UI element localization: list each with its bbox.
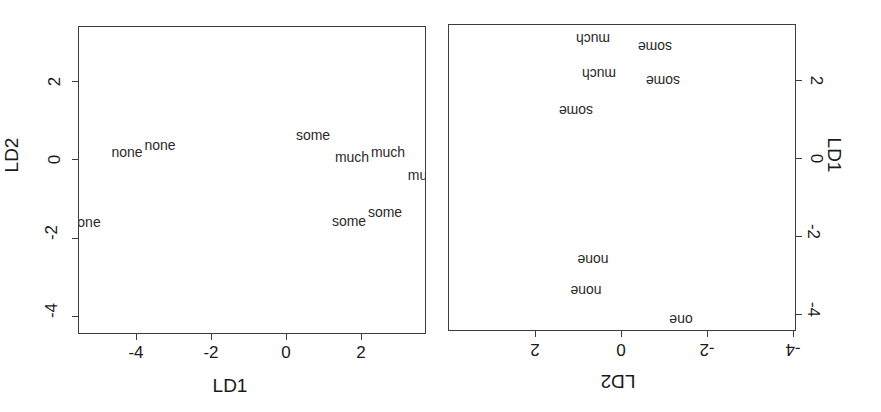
lda-scatter-figure: none none one some much much muc some so…	[0, 0, 881, 412]
x-axis-title: LD1	[213, 376, 248, 395]
x-tick	[286, 334, 287, 340]
y-tick-label: 2	[808, 76, 825, 85]
y-tick	[796, 314, 802, 315]
data-label: muc	[602, 24, 628, 27]
right-plot-frame: none none one some much much muc some so…	[448, 24, 796, 331]
x-tick	[211, 334, 212, 340]
left-plot-panel: none none one some much much muc some so…	[0, 0, 441, 412]
x-tick	[793, 331, 794, 337]
y-tick-label: 0	[46, 155, 63, 164]
data-label: some	[646, 74, 680, 88]
data-label: none	[570, 284, 601, 298]
y-tick	[72, 316, 78, 317]
x-tick-label: -2	[203, 344, 218, 361]
y-tick-label: 2	[46, 77, 63, 86]
data-label: one	[78, 215, 101, 229]
y-tick	[796, 80, 802, 81]
y-tick	[72, 81, 78, 82]
y-tick	[796, 158, 802, 159]
y-tick-label: -4	[805, 302, 822, 317]
y-tick-label: -4	[43, 303, 60, 318]
data-label: much	[371, 145, 405, 159]
data-label: much	[576, 32, 610, 46]
y-axis-title: LD2	[2, 138, 21, 173]
x-tick	[136, 334, 137, 340]
data-label: some	[296, 128, 330, 142]
data-label: some	[332, 214, 366, 228]
data-label: some	[638, 40, 672, 54]
data-label: none	[577, 253, 608, 267]
x-tick-label: 2	[356, 344, 365, 361]
x-axis-title: LD2	[601, 372, 636, 391]
right-plot-panel: none none one some much much muc some so…	[440, 0, 881, 412]
data-label: much	[582, 67, 616, 81]
x-tick	[621, 331, 622, 337]
x-tick	[361, 334, 362, 340]
x-tick-label: 0	[281, 344, 290, 361]
x-tick	[707, 331, 708, 337]
y-tick-label: -2	[805, 224, 822, 239]
x-tick-label: -2	[699, 341, 714, 358]
data-label: some	[368, 205, 402, 219]
data-label: one	[669, 313, 692, 327]
data-label: much	[335, 150, 369, 164]
data-label: muc	[408, 168, 426, 182]
y-tick-label: 0	[808, 154, 825, 163]
left-plot-frame: none none one some much much muc some so…	[78, 26, 426, 334]
data-label: some	[559, 104, 593, 118]
x-tick-label: 0	[616, 341, 625, 358]
x-tick-label: -4	[785, 341, 800, 358]
x-tick-label: 2	[530, 341, 539, 358]
x-tick	[535, 331, 536, 337]
data-label: none	[144, 138, 175, 152]
x-tick-label: -4	[128, 344, 143, 361]
y-tick-label: -2	[43, 225, 60, 240]
y-tick	[796, 236, 802, 237]
data-label: none	[111, 145, 142, 159]
y-tick	[72, 238, 78, 239]
y-axis-title: LD1	[825, 138, 844, 173]
y-tick	[72, 159, 78, 160]
